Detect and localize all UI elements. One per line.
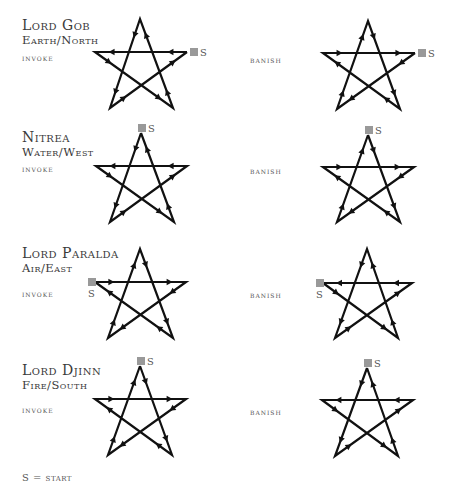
- start-marker-icon: [316, 279, 324, 287]
- start-marker-icon: [88, 278, 96, 286]
- pentagram-diagrams: SSSSSSSS: [0, 0, 449, 495]
- pentagram-invoke-water: S: [96, 123, 187, 222]
- pentagram-banish-water: S: [323, 125, 414, 222]
- start-label: S: [374, 358, 381, 369]
- direction-arrow-icon: [167, 49, 173, 55]
- start-marker-icon: [190, 48, 198, 56]
- start-label: S: [148, 123, 155, 134]
- direction-arrow-icon: [109, 49, 115, 55]
- start-marker-icon: [418, 49, 426, 57]
- pentagram-banish-fire: S: [322, 358, 413, 456]
- start-label: S: [200, 47, 207, 58]
- direction-arrow-icon: [109, 163, 115, 169]
- pentagram-banish-earth: S: [323, 21, 435, 109]
- start-marker-icon: [364, 359, 372, 367]
- start-marker-icon: [138, 124, 146, 132]
- start-label: S: [88, 288, 95, 299]
- start-marker-icon: [365, 126, 373, 134]
- direction-arrow-icon: [395, 50, 401, 56]
- direction-arrow-icon: [336, 164, 342, 170]
- direction-arrow-icon: [395, 164, 401, 170]
- direction-arrow-icon: [336, 280, 342, 286]
- direction-arrow-icon: [337, 50, 343, 56]
- direction-arrow-icon: [393, 280, 399, 286]
- start-marker-icon: [137, 357, 145, 365]
- pentagram-invoke-earth: S: [95, 19, 207, 108]
- pentagram-invoke-fire: S: [95, 356, 186, 455]
- pentagram-invoke-air: S: [88, 249, 186, 338]
- direction-arrow-icon: [394, 397, 400, 403]
- direction-arrow-icon: [167, 279, 173, 285]
- start-label: S: [428, 48, 435, 59]
- pentagram-banish-air: S: [316, 249, 412, 338]
- direction-arrow-icon: [335, 397, 341, 403]
- start-label: S: [147, 356, 154, 367]
- direction-arrow-icon: [167, 396, 173, 402]
- start-label: S: [375, 125, 382, 136]
- direction-arrow-icon: [108, 396, 114, 402]
- direction-arrow-icon: [168, 163, 174, 169]
- direction-arrow-icon: [108, 279, 114, 285]
- start-label: S: [316, 289, 323, 300]
